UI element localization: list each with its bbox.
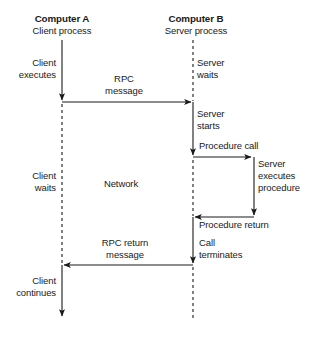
procedure-return-label: Procedure return	[199, 219, 269, 231]
rpc-message-label-line2: message	[105, 85, 143, 97]
server-waits-label-line1: Server	[197, 57, 224, 69]
server-starts-label-line1: Server	[197, 108, 224, 120]
rpc-message-label-line1: RPC	[114, 73, 134, 85]
procedure-call-label: Procedure call	[199, 140, 258, 152]
client-waits-label-line1: Client	[32, 170, 56, 182]
computer-b-subtitle: Server process	[165, 25, 227, 37]
rpc-return-message-label-line1: RPC return	[102, 237, 149, 249]
client-continues-label-line2: continues	[16, 287, 56, 299]
computer-b-title: Computer B	[168, 13, 223, 25]
network-label: Network	[104, 178, 138, 190]
rpc-sequence-diagram: Computer A Client process Computer B Ser…	[0, 0, 311, 338]
rpc-return-message-label-line2: message	[106, 249, 144, 261]
client-continues-label-line1: Client	[32, 275, 56, 287]
server-executes-label-line1: Server	[258, 158, 285, 170]
server-waits-label-line2: waits	[197, 69, 218, 81]
server-starts-label-line2: starts	[197, 120, 220, 132]
call-terminates-label-line2: terminates	[199, 249, 242, 261]
client-waits-label-line2: waits	[35, 182, 56, 194]
computer-a-title: Computer A	[35, 13, 90, 25]
server-executes-label-line3: procedure	[258, 182, 300, 194]
server-executes-label-line2: executes	[258, 170, 295, 182]
client-executes-label-line2: executes	[19, 69, 56, 81]
computer-a-subtitle: Client process	[33, 25, 92, 37]
call-terminates-label-line1: Call	[199, 237, 215, 249]
client-executes-label-line1: Client	[32, 57, 56, 69]
